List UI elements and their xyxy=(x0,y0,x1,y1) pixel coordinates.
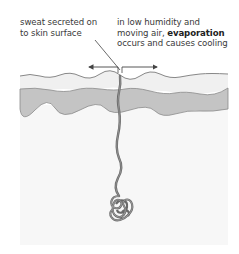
subcutaneous-tissue xyxy=(20,105,228,245)
label-pointer-line xyxy=(95,40,120,70)
skin-cross-section-diagram xyxy=(0,0,239,254)
